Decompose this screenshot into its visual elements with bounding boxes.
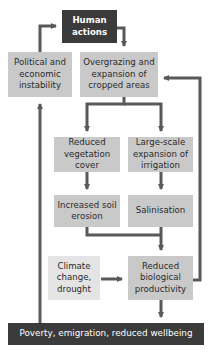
node-climate-change: Climate change, drought xyxy=(48,256,100,300)
node-salinisation: Salinisation xyxy=(128,195,193,227)
node-reduced-productivity: Reduced biological productivity xyxy=(128,256,193,300)
node-political-instability: Political and economic instability xyxy=(8,52,72,97)
node-soil-erosion: Increased soil erosion xyxy=(54,195,120,227)
node-human-actions: Human actions xyxy=(62,10,117,43)
node-irrigation: Large-scale expansion of irrigation xyxy=(128,137,193,172)
node-overgrazing: Overgrazing and expansion of cropped are… xyxy=(80,52,158,97)
node-poverty: Poverty, emigration, reduced wellbeing xyxy=(8,323,204,345)
node-reduced-vegetation: Reduced vegetation cover xyxy=(54,137,120,172)
